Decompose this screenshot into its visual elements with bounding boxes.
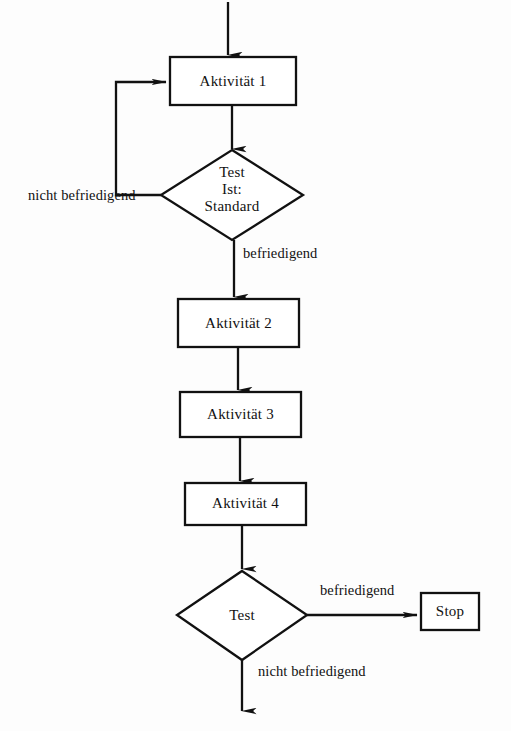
node-stop-label: Stop — [421, 603, 479, 619]
edge-label-loop-back: nicht befriedigend — [28, 187, 136, 203]
node-aktivitaet4-label: Aktivität 4 — [185, 495, 306, 511]
node-test2-label: Test — [177, 607, 307, 623]
node-aktivitaet3-label: Aktivität 3 — [180, 406, 301, 422]
node-test1-label: Test Ist: Standard — [161, 164, 303, 215]
edge-label-test2-fail: nicht befriedigend — [258, 663, 366, 679]
edge-label-test1-pass: befriedigend — [243, 245, 317, 261]
node-test1-label-line2: Ist: — [161, 181, 303, 198]
edge-label-test2-pass: befriedigend — [320, 582, 394, 598]
node-test1-label-line1: Test — [161, 164, 303, 181]
flowchart-canvas: Aktivität 1 Test Ist: Standard Aktivität… — [0, 0, 511, 731]
edge-loop-back — [116, 82, 166, 195]
node-aktivitaet2-label: Aktivität 2 — [178, 315, 299, 331]
node-aktivitaet1-label: Aktivität 1 — [170, 73, 296, 89]
node-test1-label-line3: Standard — [161, 198, 303, 215]
